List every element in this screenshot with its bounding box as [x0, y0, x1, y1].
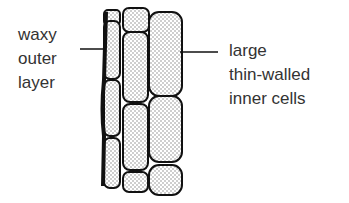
- label-line: outer: [18, 47, 57, 71]
- label-waxy-outer-layer: waxy outer layer: [18, 23, 57, 95]
- label-line: inner cells: [229, 87, 310, 111]
- label-line: large: [229, 39, 310, 63]
- inner-cells: [149, 12, 182, 195]
- label-line: thin-walled: [229, 63, 310, 87]
- middle-cells: [123, 8, 149, 192]
- label-inner-cells: large thin-walled inner cells: [229, 39, 310, 111]
- label-line: waxy: [18, 23, 57, 47]
- outer-layer-cells: [103, 10, 121, 188]
- label-line: layer: [18, 71, 57, 95]
